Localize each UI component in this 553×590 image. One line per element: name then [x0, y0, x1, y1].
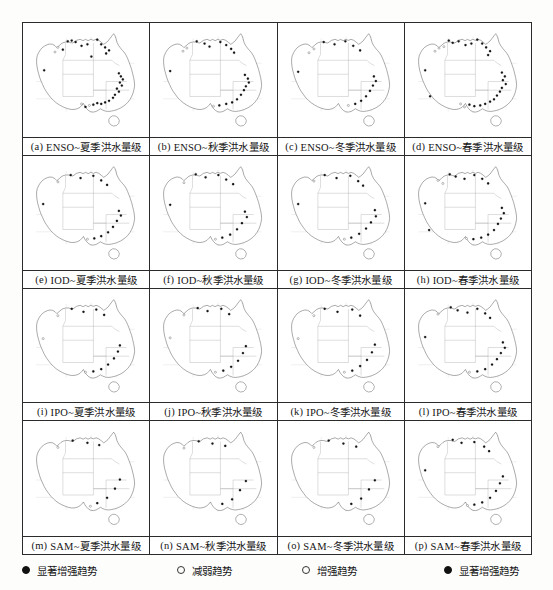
- caption-letter: (h): [417, 274, 430, 285]
- point-significant-increase: [221, 503, 223, 505]
- australia-map: [278, 23, 404, 137]
- point-significant-increase: [62, 49, 64, 51]
- point-significant-increase: [489, 316, 491, 318]
- point-significant-increase: [86, 442, 88, 444]
- point-significant-increase: [169, 70, 171, 72]
- point-significant-increase: [92, 174, 94, 176]
- map-panel-d: [405, 23, 531, 137]
- map-panel-n: [150, 421, 277, 536]
- point-significant-increase: [369, 221, 371, 223]
- point-significant-increase: [96, 102, 98, 104]
- point-significant-increase: [108, 49, 110, 51]
- point-significant-increase: [112, 226, 114, 228]
- legend-label: 显著增强趋势: [459, 563, 519, 578]
- legend-item-1: 减弱趋势: [177, 563, 302, 578]
- point-significant-increase: [371, 84, 373, 86]
- point-significant-increase: [499, 91, 501, 93]
- caption-row: (e)IOD~夏季洪水量级(f)IOD~秋季洪水量级(g)IOD~冬季洪水量级(…: [23, 270, 531, 289]
- australia-map: [278, 156, 404, 270]
- panel-caption-p: (p)SAM~春季洪水量级: [405, 537, 531, 554]
- caption-letter: (j): [164, 406, 175, 417]
- tasmania-outline: [109, 515, 120, 525]
- figure-legend: 显著增强趋势减弱趋势增强趋势显著增强趋势: [22, 560, 532, 580]
- point-significant-increase: [489, 101, 491, 103]
- point-significant-increase: [358, 232, 360, 234]
- point-significant-increase: [225, 103, 227, 105]
- point-significant-increase: [351, 369, 353, 371]
- point-significant-increase: [297, 203, 299, 205]
- map-panel-o: [278, 421, 405, 536]
- point-significant-increase: [118, 91, 120, 93]
- australia-map: [150, 156, 276, 270]
- point-significant-increase: [484, 103, 486, 105]
- point-significant-increase: [222, 369, 224, 371]
- tasmania-outline: [363, 249, 374, 259]
- point-weak-trend: [297, 337, 299, 339]
- coastline-outline: [37, 432, 135, 510]
- point-significant-increase: [225, 178, 227, 180]
- point-significant-increase: [230, 48, 232, 50]
- point-significant-increase: [497, 223, 499, 225]
- point-significant-increase: [476, 307, 478, 309]
- tasmania-outline: [236, 381, 247, 391]
- point-significant-increase: [350, 503, 352, 505]
- map-panel-a: [23, 23, 150, 137]
- point-significant-increase: [457, 40, 459, 42]
- map-panel-i: [23, 289, 150, 403]
- point-weak-trend: [343, 371, 345, 373]
- point-significant-increase: [96, 502, 98, 504]
- panel-caption-l: (l)IPO~春季洪水量级: [405, 403, 531, 420]
- point-significant-increase: [504, 83, 506, 85]
- point-significant-increase: [373, 343, 375, 345]
- point-significant-increase: [120, 75, 122, 77]
- caption-text: SAM~秋季洪水量级: [176, 538, 266, 553]
- map-grid-figure: (a)ENSO~夏季洪水量级(b)ENSO~秋季洪水量级(c)ENSO~冬季洪水…: [22, 22, 532, 555]
- point-significant-increase: [473, 441, 475, 443]
- caption-text: IOD~秋季洪水量级: [177, 272, 263, 287]
- point-significant-increase: [485, 46, 487, 48]
- point-weak-trend: [312, 48, 314, 50]
- legend-item-2: 增强趋势: [302, 563, 444, 578]
- point-significant-increase: [372, 75, 374, 77]
- point-significant-increase: [196, 40, 198, 42]
- point-significant-increase: [67, 40, 69, 42]
- caption-letter: (e): [35, 274, 47, 285]
- filled-dot-icon: [444, 566, 452, 574]
- caption-text: ENSO~春季洪水量级: [428, 139, 523, 154]
- point-significant-increase: [118, 210, 120, 212]
- point-significant-increase: [350, 236, 352, 238]
- point-weak-trend: [213, 105, 215, 107]
- point-significant-increase: [335, 177, 337, 179]
- point-significant-increase: [481, 177, 483, 179]
- map-panel-p: [405, 421, 531, 536]
- coastline-outline: [291, 432, 389, 510]
- point-significant-increase: [358, 314, 360, 316]
- point-weak-trend: [465, 237, 467, 239]
- map-panel-e: [23, 156, 150, 270]
- point-significant-increase: [342, 443, 344, 445]
- point-significant-increase: [247, 78, 249, 80]
- point-significant-increase: [100, 235, 102, 237]
- coastline-outline: [291, 34, 389, 112]
- point-significant-increase: [357, 180, 359, 182]
- point-significant-increase: [116, 88, 118, 90]
- point-significant-increase: [424, 202, 426, 204]
- point-significant-increase: [364, 95, 366, 97]
- australia-map: [278, 289, 404, 403]
- figure-row-iod: (e)IOD~夏季洪水量级(f)IOD~秋季洪水量级(g)IOD~冬季洪水量级(…: [23, 156, 531, 289]
- point-significant-increase: [480, 236, 482, 238]
- point-significant-increase: [100, 179, 102, 181]
- point-significant-increase: [456, 309, 458, 311]
- point-significant-increase: [43, 69, 45, 71]
- point-weak-trend: [437, 179, 439, 181]
- point-significant-increase: [236, 98, 238, 100]
- point-significant-increase: [473, 105, 475, 107]
- coastline-outline: [291, 166, 389, 244]
- point-significant-increase: [72, 440, 74, 442]
- point-significant-increase: [358, 364, 360, 366]
- caption-letter: (o): [287, 540, 300, 551]
- point-weak-trend: [186, 47, 188, 49]
- point-significant-increase: [42, 203, 44, 205]
- point-significant-increase: [365, 358, 367, 360]
- coastline-outline: [164, 166, 262, 244]
